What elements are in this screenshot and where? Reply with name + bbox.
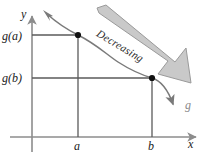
point-b-gb	[149, 75, 155, 81]
curve-label-g: g	[185, 99, 191, 111]
decreasing-function-figure: y x g(a) g(b) a b g Decreasing	[0, 0, 204, 156]
x-tick-label-a: a	[74, 140, 80, 152]
y-tick-label-gb: g(b)	[2, 72, 22, 84]
function-curve-g	[47, 14, 173, 104]
x-axis-label: x	[188, 138, 193, 150]
y-tick-label-ga: g(a)	[2, 30, 22, 42]
curve-start-arrowhead	[43, 10, 53, 21]
point-a-ga	[75, 32, 81, 38]
y-axis-label: y	[21, 8, 26, 20]
graph-canvas	[0, 0, 204, 156]
x-tick-label-b: b	[148, 140, 154, 152]
